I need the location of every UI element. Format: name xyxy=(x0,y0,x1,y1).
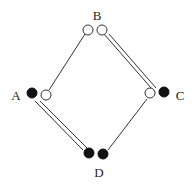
lattice-diagram: B A C D xyxy=(0,0,195,184)
node-c-filled-circle xyxy=(159,87,169,97)
node-d-filled-circle-1 xyxy=(84,148,94,158)
node-b-label: B xyxy=(93,8,102,23)
node-a: A xyxy=(11,88,51,103)
node-d: D xyxy=(84,148,108,180)
node-a-hollow-circle xyxy=(41,90,51,100)
node-c-label: C xyxy=(176,88,185,103)
node-b: B xyxy=(83,8,107,35)
node-d-filled-circle-2 xyxy=(98,149,108,159)
node-a-label: A xyxy=(11,88,21,103)
node-b-hollow-circle-2 xyxy=(97,25,107,35)
node-d-label: D xyxy=(94,165,103,180)
edge-c-d xyxy=(108,99,147,150)
edge-b-a xyxy=(49,34,85,90)
node-a-filled-circle xyxy=(27,88,37,98)
edges xyxy=(35,34,156,150)
edge-b-c xyxy=(104,34,156,89)
edge-a-d xyxy=(35,101,87,150)
node-c-hollow-circle xyxy=(145,88,155,98)
node-b-hollow-circle-1 xyxy=(83,25,93,35)
node-c: C xyxy=(145,87,184,103)
